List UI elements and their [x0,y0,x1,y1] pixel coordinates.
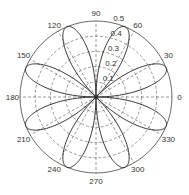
angle-label-90: 90 [92,9,101,18]
angle-label-150: 150 [17,51,31,60]
angle-label-30: 30 [164,51,173,60]
radial-label-0.5: 0.5 [113,14,125,23]
angle-label-60: 60 [133,21,142,30]
radial-label-0.3: 0.3 [108,44,120,53]
angular-grid-spoke [30,59,96,97]
angular-grid-spoke [58,97,96,163]
angular-grid-spoke [30,97,96,135]
angular-grid-spoke [58,31,96,97]
angular-tick-labels: 0306090120150180210240270300330 [6,9,183,185]
angle-label-240: 240 [48,165,62,174]
rose-curve-path [25,26,166,167]
angle-label-0: 0 [177,93,182,102]
radial-label-0.4: 0.4 [111,29,123,38]
angle-label-270: 270 [89,177,103,186]
angular-grid-spoke [96,97,134,163]
angle-label-330: 330 [162,135,176,144]
angle-label-180: 180 [6,93,20,102]
rose-curve [25,26,166,167]
polar-plot: 0306090120150180210240270300330 0.10.20.… [0,0,189,195]
angular-grid-spoke [96,97,162,135]
radial-label-0.1: 0.1 [103,74,115,83]
radial-tick-labels: 0.10.20.30.40.5 [103,14,125,83]
angle-label-300: 300 [131,165,145,174]
radial-label-0.2: 0.2 [105,59,117,68]
angle-label-120: 120 [48,21,62,30]
angle-label-210: 210 [17,135,31,144]
